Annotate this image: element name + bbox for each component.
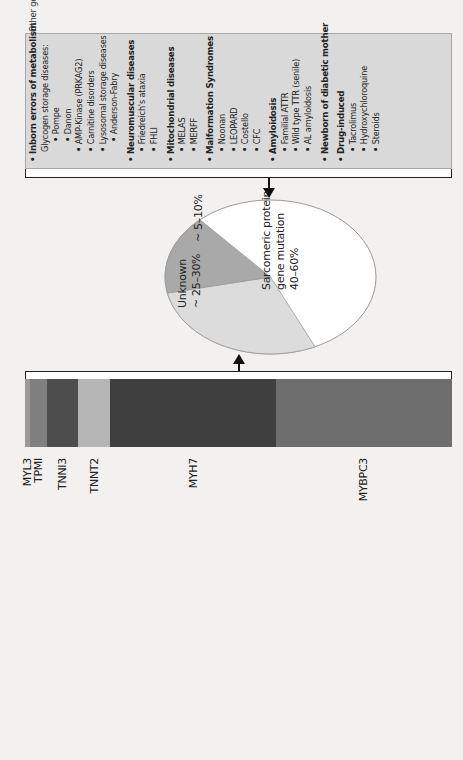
panel-item: Noonan — [217, 34, 229, 162]
panel-item: Danon — [63, 34, 75, 162]
panel-item: Pompe — [51, 34, 63, 162]
panel-item: Lysosomal storage diseases — [98, 34, 110, 162]
panel-item: Familial ATTR — [280, 34, 292, 162]
panel-item: Inborn errors of metabolism — [28, 34, 40, 162]
panel-item: Wild type TTR (senile) — [291, 34, 303, 162]
pie-label-unknown: Unknown ~ 25–30% — [176, 254, 204, 308]
panel-item: Tacrolimus — [348, 34, 360, 162]
bar-segment-mybpc3 — [276, 379, 452, 447]
gene-label-mybpc3: MYBPC3 — [358, 458, 369, 501]
gene-label-myh7: MYH7 — [188, 458, 199, 488]
bar-segment-tpmi — [30, 379, 47, 447]
gene-labels: MYL3 TPMI TNNI3 TNNT2 MYH7 MYBPC3 — [0, 458, 463, 520]
other-causes-panel: Inborn errors of metabolismGlycogen stor… — [25, 33, 452, 169]
arrow-left-icon — [263, 188, 275, 198]
panel-caption: Other genetic and non-genetic causes — [28, 0, 38, 32]
panel-item: Glycogen storage diseases: — [40, 34, 52, 162]
panel-item: Mitochondrial diseases — [166, 34, 178, 162]
gene-label-tnni3: TNNI3 — [57, 458, 68, 490]
gene-label-tnnt2: TNNT2 — [89, 458, 100, 493]
bar-to-pie-arrow-line — [238, 363, 240, 371]
panel-item: MERFF — [189, 34, 201, 162]
bar-segment-tnnt2 — [78, 379, 110, 447]
panel-item: LEOPARD — [229, 34, 241, 162]
sarcomeric-gene-stacked-bar — [25, 379, 452, 447]
panel-item: Anderson-Fabry — [109, 34, 121, 162]
panel-item: Carnitine disorders — [86, 34, 98, 162]
pie-label-other: ~ 5–10% — [192, 194, 206, 242]
hcm-etiology-diagram: MYL3 TPMI TNNI3 TNNT2 MYH7 MYBPC3 Unknow… — [0, 0, 463, 760]
panel-bracket — [25, 169, 452, 178]
panel-item: MELAS — [177, 34, 189, 162]
panel-item: AL amyloidosis — [303, 34, 315, 162]
panel-item: AMP-Kinase (PRKAG2) — [74, 34, 86, 162]
panel-item: Steroids — [371, 34, 383, 162]
bar-segment-myh7 — [110, 379, 276, 447]
panel-item: Newborn of diabetic mother — [320, 34, 332, 162]
panel-item: Drug-induced — [336, 34, 348, 162]
bar-segment-tnni3 — [47, 379, 78, 447]
panel-item: Amyloidosis — [268, 34, 280, 162]
panel-item: Malformation Syndromes — [205, 34, 217, 162]
panel-item: Costello — [240, 34, 252, 162]
panel-item: FHLI — [149, 34, 161, 162]
panel-item: Neuromuscular diseases — [126, 34, 138, 162]
panel-to-pie-arrow-line — [268, 178, 270, 188]
panel-item: CFC — [252, 34, 264, 162]
pie-label-sarcomeric: Sarcomeric protein gene mutation 40–60% — [260, 191, 302, 290]
bar-bracket — [25, 371, 452, 379]
panel-item: Hydroxychloroquine — [359, 34, 371, 162]
panel-item: Friedreich's ataxia — [137, 34, 149, 162]
gene-label-tpm1: TPMI — [33, 458, 44, 483]
